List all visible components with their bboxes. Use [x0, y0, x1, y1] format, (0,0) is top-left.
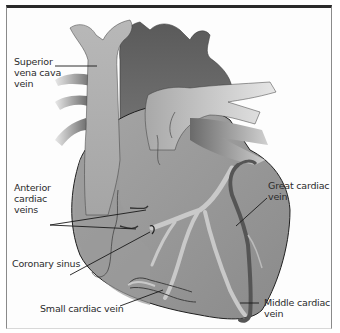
label-middle-cardiac-vein: Middle cardiac vein [264, 297, 330, 319]
label-anterior-cardiac-veins: Anterior cardiac veins [14, 182, 51, 215]
label-line: Superior [14, 56, 61, 67]
label-line: Small cardiac vein [40, 303, 123, 314]
label-superior-vena-cava: Superior vena cava vein [14, 56, 61, 89]
label-line: cardiac [14, 193, 51, 204]
label-line: veins [14, 204, 51, 215]
label-line: Great cardiac [268, 180, 329, 191]
label-great-cardiac-vein: Great cardiac vein [268, 180, 329, 202]
label-small-cardiac-vein: Small cardiac vein [40, 303, 123, 314]
label-line: vein [264, 308, 330, 319]
label-line: Anterior [14, 182, 51, 193]
label-line: vena cava [14, 67, 61, 78]
heart-illustration [0, 0, 340, 333]
label-line: Coronary sinus [12, 258, 80, 269]
label-line: vein [14, 78, 61, 89]
label-line: vein [268, 191, 329, 202]
label-line: Middle cardiac [264, 297, 330, 308]
label-coronary-sinus: Coronary sinus [12, 258, 80, 269]
